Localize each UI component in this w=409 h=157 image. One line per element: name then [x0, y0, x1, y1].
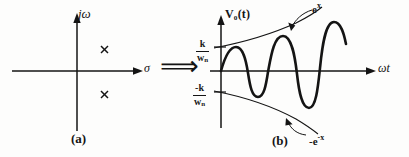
- plot-b-lower-leader-arrowhead: [285, 118, 292, 126]
- plot-b-tick-label-negative: -k wn: [193, 83, 206, 107]
- plot-a-pole-markers: [101, 46, 108, 98]
- figure-container: jω σ (a) ⟹ V₀(t) ωt (b) k wn -k wn ex -e…: [0, 0, 409, 157]
- lower-envelope-label-exponent: -x: [318, 133, 325, 142]
- tick-positive-denominator: wn: [196, 53, 209, 64]
- caption-b: (b): [272, 134, 288, 147]
- plot-b-vertical-axis-arrowhead: [217, 15, 224, 25]
- plot-b-upper-leader-line: [292, 10, 312, 27]
- plot-b-tick-label-positive: k wn: [196, 39, 209, 63]
- pole-marker-upper: [101, 46, 108, 53]
- plot-b-upper-envelope-label: ex: [312, 4, 321, 15]
- tick-negative-denominator: wn: [193, 97, 206, 108]
- caption-a: (a): [71, 132, 86, 145]
- figure-vector-canvas: [0, 0, 409, 157]
- tick-negative-denominator-subscript: n: [201, 100, 205, 108]
- plot-a-axes: [12, 13, 143, 131]
- implication-arrow-symbol: ⟹: [160, 53, 199, 80]
- pole-marker-lower: [101, 91, 108, 98]
- plot-a-vertical-axis-label: jω: [78, 7, 91, 20]
- lower-envelope-label-base: -e: [309, 135, 318, 147]
- plot-b-vertical-axis-label: V₀(t): [225, 8, 250, 20]
- tick-positive-denominator-subscript: n: [204, 56, 208, 64]
- tick-positive-numerator: k: [196, 39, 209, 50]
- plot-b-axes: [210, 15, 376, 128]
- plot-a-horizontal-axis-label: σ: [144, 62, 150, 74]
- plot-b-waveform: [221, 22, 346, 108]
- tick-negative-numerator: -k: [193, 83, 206, 94]
- plot-a-horizontal-axis-arrowhead: [133, 67, 143, 74]
- plot-b-lower-envelope-label: -e-x: [309, 136, 324, 147]
- plot-b-horizontal-axis-label: ωt: [378, 62, 390, 74]
- upper-envelope-label-exponent: x: [317, 1, 321, 10]
- plot-b-horizontal-axis-arrowhead: [366, 67, 376, 74]
